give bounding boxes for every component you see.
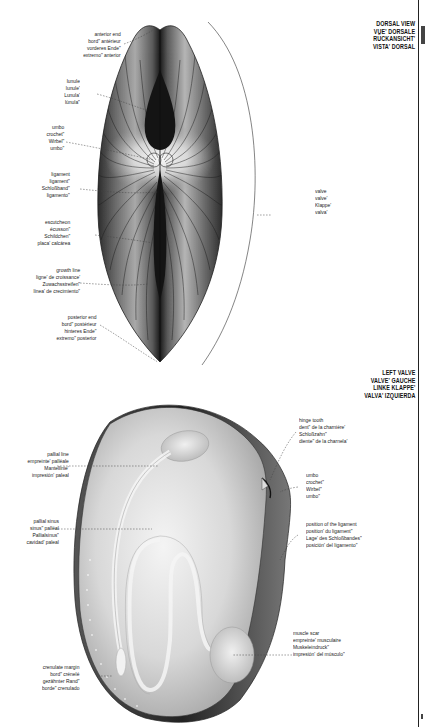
label-line: Pallialsinus"	[27, 532, 59, 539]
title-de: RÜCKANSICHT'	[373, 35, 415, 43]
label-growth-line: growth line ligne' de croissance' Zuwach…	[33, 267, 80, 295]
label-line: posición' del ligamento"	[306, 542, 362, 549]
label-line: bord" postérieur	[57, 321, 97, 328]
label-line: muscle scar	[293, 630, 345, 637]
label-line: hinge tooth	[299, 417, 347, 424]
left-valve-shell	[74, 405, 291, 722]
label-pallial-line: pallial line empreinte' palléale Mantell…	[28, 451, 69, 479]
label-muscle-scar: muscle scar empreinte' musculaire Muskel…	[293, 630, 345, 658]
label-line: anterior end	[83, 31, 121, 38]
label-line: valva'	[315, 209, 331, 216]
label-line: borde" crenulado	[42, 685, 79, 692]
label-line: ligne' de croissance'	[33, 274, 80, 281]
label-escutcheon: escutcheon écusson" Schildchen" placa' c…	[37, 219, 70, 247]
label-line: ligament"	[42, 178, 70, 185]
label-umbo-valve: umbo crochet" Wirbel" umbo"	[306, 472, 324, 500]
label-line: valve	[315, 188, 331, 195]
label-line: pallial line	[28, 451, 69, 458]
label-line: Schloßband"	[42, 185, 70, 192]
label-line: ligamento"	[42, 192, 70, 199]
title-en: LEFT VALVE	[364, 369, 415, 377]
label-line: pallial sinus	[27, 518, 59, 525]
label-line: umbo"	[306, 493, 324, 500]
dorsal-view-title: DORSAL VIEW VUE' DORSALE RÜCKANSICHT' VI…	[373, 20, 415, 50]
label-valve: valve valve' Klappe' valva'	[315, 188, 331, 216]
left-valve-title: LEFT VALVE VALVE' GAUCHE LINKE KLAPPE' V…	[364, 369, 415, 399]
label-line: extremo" anterior	[83, 52, 121, 59]
label-hinge-tooth: hinge tooth dent" de la charnière' Schlo…	[299, 417, 347, 445]
label-line: crochet"	[46, 131, 64, 138]
label-line: position' du ligament"	[306, 528, 362, 535]
dorsal-shell	[96, 26, 224, 362]
label-line: Zuwachsstreifen"	[33, 281, 80, 288]
label-line: Schloßzahn"	[299, 431, 347, 438]
label-line: extremo" posterior	[57, 335, 97, 342]
label-line: umbo	[306, 472, 324, 479]
label-line: bord" antérieur	[83, 38, 121, 45]
label-line: écusson"	[37, 226, 70, 233]
label-lunule: lunule lunule' Lunula' lúnula"	[64, 78, 80, 106]
label-line: placa' calcárea	[37, 240, 70, 247]
title-es: VALVA' IZQUIERDA	[364, 392, 415, 400]
label-line: vorderes Ende"	[83, 45, 121, 52]
label-line: lunule	[64, 78, 80, 85]
title-es: VISTA' DORSAL	[373, 43, 415, 51]
label-line: bord" crénelé	[42, 671, 79, 678]
label-line: lunule'	[64, 85, 80, 92]
label-line: valve'	[315, 195, 331, 202]
label-line: position of the ligament	[306, 521, 362, 528]
label-pallial-sinus: pallial sinus sinus" palléal Pallialsinu…	[27, 518, 59, 546]
label-line: escutcheon	[37, 219, 70, 226]
label-line: Lage' des Schloßbandes"	[306, 535, 362, 542]
title-fr: VALVE' GAUCHE	[364, 377, 415, 385]
label-line: dent" de la charnière'	[299, 424, 347, 431]
shell-illustration	[0, 0, 428, 727]
label-line: Mantellinie'	[28, 465, 69, 472]
label-line: Schildchen"	[37, 233, 70, 240]
label-line: crenulate margin	[42, 664, 79, 671]
title-en: DORSAL VIEW	[373, 20, 415, 28]
label-line: empreinte' palléale	[28, 458, 69, 465]
label-line: posterior end	[57, 314, 97, 321]
label-ligament-position: position of the ligament position' du li…	[306, 521, 362, 549]
label-line: umbo	[46, 124, 64, 131]
label-anterior-end: anterior end bord" antérieur vorderes En…	[83, 31, 121, 59]
label-line: empreinte' musculaire	[293, 637, 345, 644]
label-line: sinus" palléal	[27, 525, 59, 532]
label-posterior-end: posterior end bord" postérieur hinteres …	[57, 314, 97, 342]
label-line: Muskeleindruck"	[293, 644, 345, 651]
label-line: diente" de la charnela'	[299, 438, 347, 445]
label-line: Lunula'	[64, 92, 80, 99]
label-line: umbo"	[46, 145, 64, 152]
label-line: Wirbel"	[46, 138, 64, 145]
label-line: crochet"	[306, 479, 324, 486]
label-line: gezähnter Rand"	[42, 678, 79, 685]
label-line: impresión' paleal	[28, 472, 69, 479]
label-line: impresión' del músculo"	[293, 651, 345, 658]
label-line: growth line	[33, 267, 80, 274]
label-umbo-dorsal: umbo crochet" Wirbel" umbo"	[46, 124, 64, 152]
label-line: Klappe'	[315, 202, 331, 209]
label-line: ligament	[42, 171, 70, 178]
title-de: LINKE KLAPPE'	[364, 384, 415, 392]
label-line: línea' de crecimiento"	[33, 288, 80, 295]
label-crenulate-margin: crenulate margin bord" crénelé gezähnter…	[42, 664, 79, 692]
label-line: Wirbel"	[306, 486, 324, 493]
label-line: hinteres Ende"	[57, 328, 97, 335]
label-ligament: ligament ligament" Schloßband" ligamento…	[42, 171, 70, 199]
label-line: cavidad' paleal	[27, 539, 59, 546]
label-line: lúnula"	[64, 99, 80, 106]
